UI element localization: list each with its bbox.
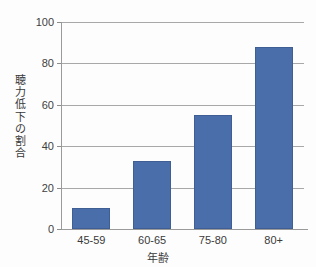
bar-slot: [122, 22, 183, 229]
bar: [133, 161, 171, 229]
bar-chart: 聴 力 低 下 の 割 合 020406080100 45-5960-6575-…: [0, 0, 316, 267]
y-tick-label: 60: [42, 99, 54, 111]
bars-layer: [61, 22, 304, 229]
bar: [72, 208, 110, 229]
y-tick-label: 40: [42, 140, 54, 152]
x-axis-line: [61, 229, 308, 230]
y-axis-title-char: 力: [12, 86, 28, 98]
y-tick-label: 100: [36, 16, 54, 28]
bar: [194, 115, 232, 229]
y-axis-title-char: の: [12, 123, 28, 135]
x-axis-title: 年齢: [0, 249, 316, 265]
bar-slot: [61, 22, 122, 229]
y-axis-title-char: 聴: [12, 74, 28, 86]
x-tick-label: 45-59: [77, 234, 105, 246]
y-tick-label: 20: [42, 182, 54, 194]
x-tick-label: 75-80: [199, 234, 227, 246]
y-tick-label: 0: [48, 223, 54, 235]
y-axis-title-char: 合: [12, 147, 28, 159]
bar-slot: [183, 22, 244, 229]
y-axis-title-char: 割: [12, 135, 28, 147]
y-axis-title-char: 低: [12, 98, 28, 110]
x-tick-label: 60-65: [138, 234, 166, 246]
y-axis-title: 聴 力 低 下 の 割 合: [12, 74, 28, 159]
y-tick-label: 80: [42, 57, 54, 69]
x-tick-label: 80+: [264, 234, 283, 246]
y-axis-title-char: 下: [12, 111, 28, 123]
bar-slot: [243, 22, 304, 229]
bar: [255, 47, 293, 229]
